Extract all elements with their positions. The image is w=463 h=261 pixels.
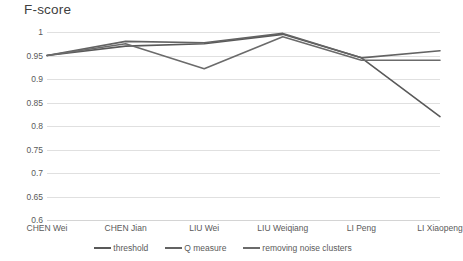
- series-lines-group: [47, 32, 440, 220]
- legend-swatch-icon: [243, 247, 260, 249]
- y-axis-tick-label: 0.9: [3, 75, 43, 84]
- y-axis-tick-label: 1: [3, 28, 43, 37]
- y-axis-tick-label: 0.75: [3, 146, 43, 155]
- legend-label: Q measure: [184, 243, 226, 253]
- legend-swatch-icon: [165, 247, 182, 249]
- y-axis-tick-label: 0.65: [3, 193, 43, 202]
- x-axis-tick-label: LI Peng: [347, 223, 376, 233]
- legend-swatch-icon: [94, 247, 111, 249]
- chart-title: F-score: [24, 2, 71, 17]
- legend-item[interactable]: threshold: [94, 243, 148, 253]
- y-axis-tick-label: 0.95: [3, 52, 43, 61]
- x-axis-tick-labels: CHEN WeiCHEN JianLIU WeiLIU WeiqiangLI P…: [47, 223, 440, 239]
- series-line: [47, 33, 440, 57]
- x-axis-tick-label: LIU Weiqiang: [257, 223, 308, 233]
- x-axis-tick-label: CHEN Wei: [27, 223, 68, 233]
- gridline: [47, 220, 440, 221]
- legend-item[interactable]: removing noise clusters: [243, 243, 351, 253]
- legend-label: threshold: [113, 243, 148, 253]
- series-line: [47, 37, 440, 69]
- x-axis-tick-label: CHEN Jian: [105, 223, 147, 233]
- x-axis-tick-label: LIU Wei: [189, 223, 219, 233]
- y-axis-tick-label: 0.7: [3, 169, 43, 178]
- x-axis-tick-label: LI Xiaopeng: [417, 223, 462, 233]
- chart-legend: thresholdQ measureremoving noise cluster…: [0, 240, 446, 256]
- y-axis-tick-label: 0.8: [3, 122, 43, 131]
- y-axis-tick-label: 0.85: [3, 99, 43, 108]
- legend-item[interactable]: Q measure: [165, 243, 226, 253]
- y-axis-tick-labels: 10.950.90.850.80.750.70.650.6: [0, 32, 43, 220]
- legend-label: removing noise clusters: [262, 243, 351, 253]
